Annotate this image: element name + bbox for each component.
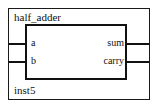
input-port-label-b: b [31, 56, 36, 66]
input-port-label-a: a [31, 38, 35, 48]
input-pin-wire-a[interactable] [9, 43, 26, 45]
entity-name-label: half_adder [14, 12, 61, 23]
instance-name-label: inst5 [14, 85, 35, 96]
output-pin-wire-sum[interactable] [126, 43, 149, 45]
input-pin-wire-b[interactable] [9, 61, 26, 63]
schematic-symbol-canvas: half_adder a b sum carry inst5 [0, 0, 159, 107]
component-body-rectangle[interactable] [25, 24, 127, 80]
output-port-label-carry: carry [103, 56, 124, 66]
output-pin-wire-carry[interactable] [126, 61, 149, 63]
output-port-label-sum: sum [107, 38, 124, 48]
